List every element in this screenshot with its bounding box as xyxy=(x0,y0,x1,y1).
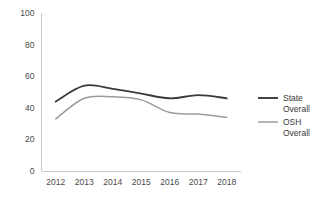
y-axis: 020406080100 xyxy=(20,8,41,176)
x-tick-label: 2015 xyxy=(132,177,151,187)
y-tick-label: 0 xyxy=(30,166,35,176)
legend-label-line1: State xyxy=(283,93,303,103)
series-lines xyxy=(56,85,227,119)
x-tick-label: 2018 xyxy=(217,177,236,187)
y-tick-label: 80 xyxy=(25,40,35,50)
x-tick-label: 2012 xyxy=(46,177,65,187)
x-tick-label: 2014 xyxy=(103,177,122,187)
line-chart: 020406080100 201220132014201520162017201… xyxy=(0,0,321,200)
legend-label-line2: Overall xyxy=(283,104,310,114)
x-tick-label: 2013 xyxy=(75,177,94,187)
chart-legend: StateOverallOSHOverall xyxy=(258,93,310,138)
legend-label-line1: OSH xyxy=(283,117,301,127)
y-tick-label: 40 xyxy=(25,103,35,113)
legend-label-line2: Overall xyxy=(283,128,310,138)
y-tick-label: 20 xyxy=(25,134,35,144)
x-tick-label: 2017 xyxy=(189,177,208,187)
y-tick-label: 100 xyxy=(20,8,34,18)
x-axis: 2012201320142015201620172018 xyxy=(42,171,242,187)
x-tick-label: 2016 xyxy=(160,177,179,187)
series-line-osh-overall xyxy=(56,96,227,119)
chart-canvas: 020406080100 201220132014201520162017201… xyxy=(0,0,321,200)
y-tick-label: 60 xyxy=(25,71,35,81)
